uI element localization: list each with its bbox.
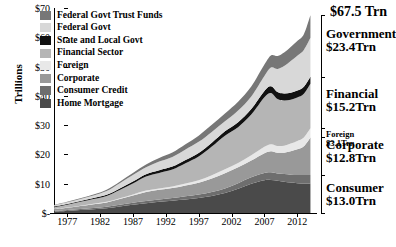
annotation-bracket — [321, 128, 322, 137]
y-tick-label: $30 — [35, 120, 50, 131]
corporate-annotation-value: $12.8Trn — [326, 151, 384, 165]
x-tick-mark — [166, 213, 167, 217]
government-annotation-value: $23.4Trn — [326, 40, 396, 54]
x-tick-label: 2007 — [254, 216, 274, 227]
total-label: $67.5 Trn — [330, 4, 387, 20]
legend-item-label: Financial Sector — [57, 48, 123, 58]
x-tick-label: 1997 — [189, 216, 209, 227]
x-tick-label: 1992 — [156, 216, 176, 227]
legend-swatch-icon — [40, 23, 51, 32]
legend-item-label: Consumer Credit — [57, 86, 128, 96]
legend-swatch-icon — [40, 49, 51, 58]
legend-item[interactable]: Financial Sector — [40, 47, 162, 60]
x-tick-mark — [264, 213, 265, 217]
legend-swatch-icon — [40, 61, 51, 70]
annotation-bracket — [321, 77, 322, 129]
x-tick-label: 2002 — [222, 216, 242, 227]
annotation-bracket — [321, 15, 322, 77]
consumer-annotation: Consumer$13.0Trn — [326, 181, 384, 208]
annotation-bracket-tick — [321, 77, 325, 78]
legend-item-label: Federal Govt — [57, 23, 111, 33]
financial-annotation: Financial$15.2Trn — [326, 87, 378, 114]
legend-item[interactable]: State and Local Govt — [40, 34, 162, 47]
x-tick-label: 2012 — [287, 216, 307, 227]
annotation-bracket-tick — [321, 128, 325, 129]
y-tick-label: $- — [42, 208, 50, 219]
legend-item[interactable]: Consumer Credit — [40, 85, 162, 98]
y-tick-label: $20 — [35, 149, 50, 160]
legend-item-label: Foreign — [57, 61, 89, 71]
consumer-annotation-label: Consumer — [326, 181, 384, 194]
legend-item[interactable]: Federal Govt Trust Funds — [40, 9, 162, 22]
chart-legend: Federal Govt Trust FundsFederal GovtStat… — [40, 9, 162, 110]
legend-item-label: Home Mortgage — [57, 99, 123, 109]
legend-item[interactable]: Home Mortgage — [40, 97, 162, 110]
legend-item[interactable]: Federal Govt — [40, 22, 162, 35]
x-tick-mark — [232, 213, 233, 217]
legend-item-label: State and Local Govt — [57, 36, 143, 46]
legend-item-label: Federal Govt Trust Funds — [57, 11, 162, 21]
x-tick-mark — [297, 213, 298, 217]
legend-item-label: Corporate — [57, 74, 99, 84]
financial-annotation-value: $15.2Trn — [326, 100, 378, 114]
legend-swatch-icon — [40, 99, 51, 108]
legend-swatch-icon — [40, 11, 51, 20]
x-tick-label: 1987 — [123, 216, 143, 227]
x-tick-label: 1982 — [90, 216, 110, 227]
legend-swatch-icon — [40, 74, 51, 83]
annotation-bracket-tick — [321, 137, 325, 138]
x-tick-mark — [100, 213, 101, 217]
legend-item[interactable]: Foreign — [40, 59, 162, 72]
x-tick-mark — [199, 213, 200, 217]
annotation-bracket — [321, 175, 322, 213]
annotation-bracket — [321, 137, 322, 174]
consumer-annotation-value: $13.0Trn — [326, 194, 384, 208]
annotation-bracket-tick — [321, 213, 325, 214]
x-tick-label: 1977 — [57, 216, 77, 227]
x-axis-line — [50, 213, 317, 214]
x-tick-mark — [133, 213, 134, 217]
annotation-bracket-tick — [321, 175, 325, 176]
x-tick-mark — [67, 213, 68, 217]
corporate-annotation: Corporate$12.8Trn — [326, 138, 384, 165]
legend-swatch-icon — [40, 36, 51, 45]
annotation-bracket-tick — [321, 15, 325, 16]
legend-swatch-icon — [40, 86, 51, 95]
government-annotation: Government$23.4Trn — [326, 27, 396, 54]
financial-annotation-label: Financial — [326, 87, 378, 100]
legend-item[interactable]: Corporate — [40, 72, 162, 85]
y-tick-label: $10 — [35, 178, 50, 189]
